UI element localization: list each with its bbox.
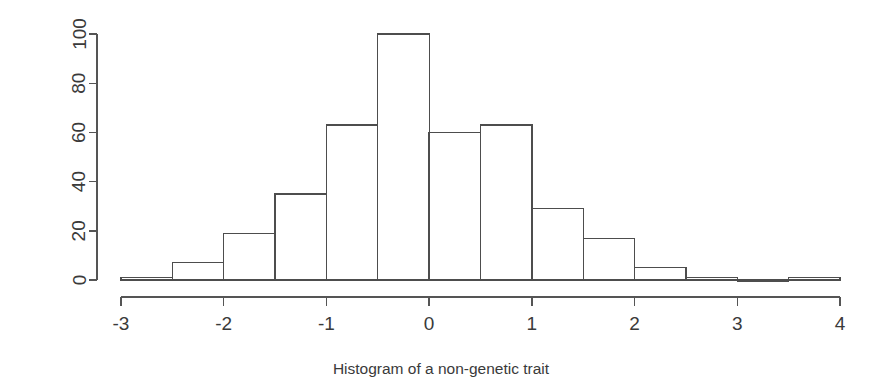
y-axis-tick-label: 80 (69, 73, 90, 94)
y-axis-tick-label: 20 (69, 220, 90, 241)
chart-title: Histogram of a non-genetic trait (333, 360, 550, 377)
y-axis-tick-label: 0 (69, 275, 90, 286)
x-axis-tick-label: -2 (215, 313, 232, 334)
x-axis-tick-label: -3 (113, 313, 130, 334)
x-axis-tick-label: 3 (732, 313, 743, 334)
x-axis-tick-label: 0 (424, 313, 435, 334)
x-axis-tick-label: -1 (318, 313, 335, 334)
histogram-bar (737, 280, 788, 281)
plot-background (0, 0, 882, 384)
y-axis-tick-label: 100 (69, 18, 90, 50)
x-axis-tick-label: 1 (527, 313, 538, 334)
y-axis-tick-label: 40 (69, 171, 90, 192)
histogram-plot: 020406080100 -3-2-101234 Histogram of a … (0, 0, 882, 384)
y-axis-tick-label: 60 (69, 122, 90, 143)
histogram-figure: 020406080100 -3-2-101234 Histogram of a … (0, 0, 882, 384)
x-axis-tick-label: 4 (835, 313, 846, 334)
x-axis-tick-label: 2 (629, 313, 640, 334)
